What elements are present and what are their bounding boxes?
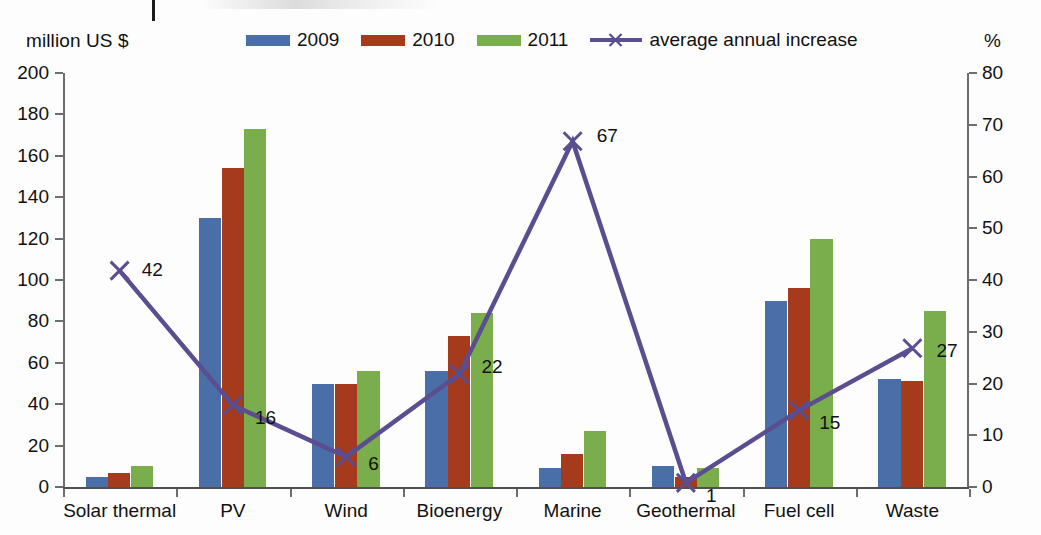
- scan-smudge: [200, 0, 440, 9]
- left-tick-label: 100: [3, 269, 49, 291]
- bar-2009-fuel-cell: [765, 301, 787, 487]
- legend-label: 2011: [528, 29, 569, 51]
- bar-2009-pv: [199, 218, 221, 487]
- bar-2011-solar-thermal: [131, 466, 153, 487]
- x-axis-label: Wind: [324, 500, 367, 522]
- left-tick-mark: [55, 113, 63, 115]
- left-tick-label: 0: [3, 476, 49, 498]
- left-tick-label: 60: [3, 352, 49, 374]
- left-tick-label: 40: [3, 393, 49, 415]
- right-tick-label: 0: [982, 476, 993, 498]
- left-tick-mark: [55, 362, 63, 364]
- scan-artifact-mark: [152, 0, 155, 21]
- right-tick-label: 40: [982, 269, 1003, 291]
- right-tick-mark: [969, 72, 977, 74]
- right-tick-mark: [969, 486, 977, 488]
- left-tick-mark: [55, 486, 63, 488]
- bar-2011-marine: [584, 431, 606, 487]
- right-tick-mark: [969, 124, 977, 126]
- right-tick-label: 80: [982, 62, 1003, 84]
- x-tick-mark: [290, 489, 292, 497]
- bar-2011-waste: [924, 311, 946, 487]
- x-axis-label: Marine: [544, 500, 602, 522]
- bar-2010-solar-thermal: [108, 473, 130, 487]
- left-tick-label: 120: [3, 228, 49, 250]
- line-point-label: 27: [936, 340, 957, 362]
- line-point-label: 42: [142, 259, 163, 281]
- bar-2010-marine: [561, 454, 583, 487]
- bar-2010-waste: [901, 381, 923, 487]
- right-tick-label: 50: [982, 217, 1003, 239]
- x-tick-mark: [516, 489, 518, 497]
- legend-label: 2010: [412, 29, 454, 51]
- right-tick-label: 70: [982, 114, 1003, 136]
- bar-2009-solar-thermal: [86, 477, 108, 487]
- x-axis-label: Geothermal: [636, 500, 735, 522]
- legend-swatch-icon: [477, 35, 521, 46]
- right-tick-label: 10: [982, 424, 1003, 446]
- line-point-label: 16: [255, 407, 276, 429]
- x-axis-label: Solar thermal: [63, 500, 176, 522]
- legend-swatch-icon: [361, 35, 405, 46]
- left-tick-mark: [55, 196, 63, 198]
- bar-2011-pv: [244, 129, 266, 487]
- line-point-label: 22: [481, 356, 502, 378]
- right-tick-mark: [969, 279, 977, 281]
- bar-2009-wind: [312, 384, 334, 488]
- legend-label: average annual increase: [649, 29, 857, 51]
- line-point-label: 1: [706, 485, 717, 507]
- x-axis-label: Fuel cell: [764, 500, 835, 522]
- legend-line-x-icon: [590, 33, 642, 47]
- bar-2010-geothermal: [675, 477, 697, 487]
- legend-item-2010: 2010: [361, 28, 454, 52]
- left-axis-title: million US $: [26, 30, 129, 52]
- x-tick-mark: [63, 489, 65, 497]
- x-tick-mark: [176, 489, 178, 497]
- right-tick-mark: [969, 176, 977, 178]
- left-tick-label: 160: [3, 145, 49, 167]
- left-tick-mark: [55, 320, 63, 322]
- right-tick-label: 20: [982, 373, 1003, 395]
- left-tick-label: 80: [3, 310, 49, 332]
- left-tick-label: 140: [3, 186, 49, 208]
- x-tick-mark: [629, 489, 631, 497]
- left-tick-mark: [55, 403, 63, 405]
- x-tick-mark: [856, 489, 858, 497]
- chart-canvas: million US $ % 200920102011average annua…: [0, 0, 1041, 535]
- bar-2009-waste: [878, 379, 900, 487]
- bar-2010-fuel-cell: [788, 288, 810, 487]
- right-axis-title: %: [984, 30, 1001, 52]
- legend-item-average-annual-increase: average annual increase: [590, 28, 857, 52]
- legend-item-2009: 2009: [246, 28, 339, 52]
- left-tick-mark: [55, 72, 63, 74]
- bar-2009-geothermal: [652, 466, 674, 487]
- right-tick-label: 60: [982, 166, 1003, 188]
- left-tick-mark: [55, 279, 63, 281]
- right-tick-mark: [969, 331, 977, 333]
- left-tick-mark: [55, 238, 63, 240]
- right-tick-label: 30: [982, 321, 1003, 343]
- x-tick-mark: [743, 489, 745, 497]
- left-tick-mark: [55, 445, 63, 447]
- bar-2010-bioenergy: [448, 336, 470, 487]
- bar-2009-bioenergy: [425, 371, 447, 487]
- bar-2010-wind: [335, 384, 357, 488]
- x-axis-label: Waste: [886, 500, 939, 522]
- left-tick-label: 180: [3, 103, 49, 125]
- legend-label: 2009: [297, 29, 339, 51]
- x-axis-label: PV: [220, 500, 245, 522]
- x-axis-label: Bioenergy: [417, 500, 503, 522]
- bar-2009-marine: [539, 468, 561, 487]
- line-point-label: 15: [819, 412, 840, 434]
- chart-legend: 200920102011average annual increase: [246, 28, 858, 52]
- left-tick-label: 20: [3, 435, 49, 457]
- left-tick-label: 200: [3, 62, 49, 84]
- x-tick-mark: [969, 489, 971, 497]
- bar-2011-fuel-cell: [810, 239, 832, 487]
- right-tick-mark: [969, 227, 977, 229]
- line-point-label: 6: [368, 453, 379, 475]
- right-tick-mark: [969, 434, 977, 436]
- x-tick-mark: [403, 489, 405, 497]
- right-tick-mark: [969, 383, 977, 385]
- left-tick-mark: [55, 155, 63, 157]
